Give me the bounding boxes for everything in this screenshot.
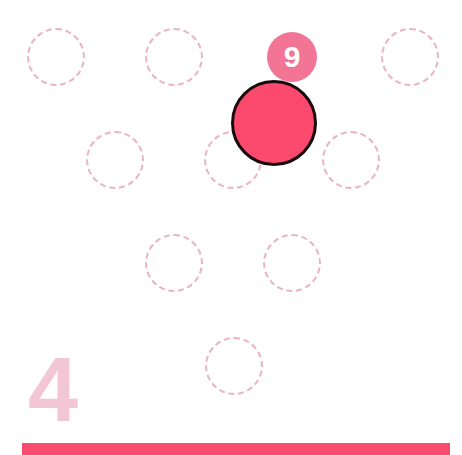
bottom-action-bar[interactable] bbox=[22, 443, 450, 455]
empty-slot[interactable] bbox=[86, 131, 144, 189]
empty-slot[interactable] bbox=[205, 337, 263, 395]
count-badge: 9 bbox=[267, 32, 317, 82]
empty-slot[interactable] bbox=[381, 28, 439, 86]
empty-slot[interactable] bbox=[145, 234, 203, 292]
empty-slot[interactable] bbox=[145, 28, 203, 86]
empty-slot[interactable] bbox=[263, 234, 321, 292]
empty-slot[interactable] bbox=[322, 131, 380, 189]
level-number: 4 bbox=[28, 345, 78, 435]
empty-slot[interactable] bbox=[27, 28, 85, 86]
draggable-piece[interactable] bbox=[231, 80, 317, 166]
